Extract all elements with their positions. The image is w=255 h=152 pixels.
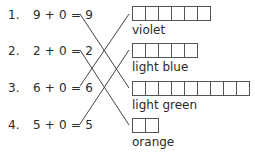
color-label-light-green: light green bbox=[132, 98, 197, 112]
box-row-light-blue bbox=[132, 43, 197, 58]
equation-expression: 2 + 0 = 2 bbox=[33, 43, 93, 59]
empty-box bbox=[132, 43, 146, 58]
color-label-orange: orange bbox=[132, 135, 174, 149]
empty-box bbox=[223, 81, 237, 96]
empty-box bbox=[132, 81, 146, 96]
empty-box bbox=[145, 81, 159, 96]
empty-box bbox=[171, 6, 185, 21]
equation-expression: 5 + 0 = 5 bbox=[33, 117, 93, 133]
equation-number: 3. bbox=[8, 80, 28, 96]
empty-box bbox=[197, 81, 211, 96]
empty-box bbox=[145, 43, 159, 58]
empty-box bbox=[171, 81, 185, 96]
equation-number: 1. bbox=[8, 7, 28, 23]
empty-box bbox=[184, 6, 198, 21]
empty-box bbox=[158, 43, 172, 58]
box-row-violet bbox=[132, 6, 210, 21]
empty-box bbox=[145, 6, 159, 21]
empty-box bbox=[184, 81, 198, 96]
empty-box bbox=[197, 6, 211, 21]
box-row-light-green bbox=[132, 81, 249, 96]
empty-box bbox=[158, 81, 172, 96]
empty-box bbox=[236, 81, 250, 96]
equation-number: 2. bbox=[8, 43, 28, 59]
empty-box bbox=[158, 6, 172, 21]
color-label-violet: violet bbox=[132, 23, 165, 37]
color-label-light-blue: light blue bbox=[132, 60, 188, 74]
empty-box bbox=[184, 43, 198, 58]
empty-box bbox=[210, 81, 224, 96]
empty-box bbox=[132, 118, 146, 133]
equation-number: 4. bbox=[8, 117, 28, 133]
empty-box bbox=[145, 118, 159, 133]
empty-box bbox=[132, 6, 146, 21]
equation-expression: 6 + 0 = 6 bbox=[33, 80, 93, 96]
equation-expression: 9 + 0 = 9 bbox=[33, 7, 93, 23]
box-row-orange bbox=[132, 118, 158, 133]
empty-box bbox=[171, 43, 185, 58]
